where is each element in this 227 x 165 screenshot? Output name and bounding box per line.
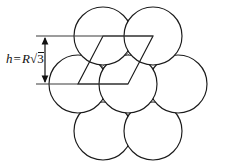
packing-diagram-svg xyxy=(0,0,227,165)
dimension-arrow-down-icon xyxy=(42,76,49,84)
radical-vinculum xyxy=(38,52,44,53)
dimension-arrow-up-icon xyxy=(42,37,49,45)
sphere-packing-figure: h=R√3 xyxy=(0,0,227,165)
equals-sign: = xyxy=(13,51,22,66)
square-root-group: √3 xyxy=(30,51,44,67)
height-dimension-label: h=R√3 xyxy=(6,51,44,67)
height-variable: h xyxy=(6,51,13,66)
radicand-value: 3 xyxy=(37,51,44,66)
radius-symbol: R xyxy=(22,51,30,66)
